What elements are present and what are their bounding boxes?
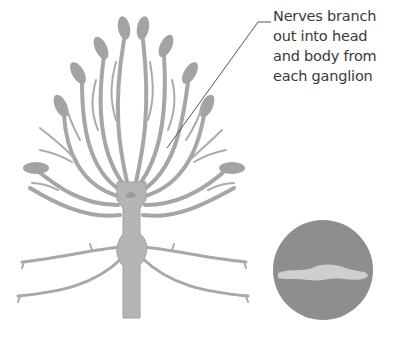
head-nerves-left xyxy=(23,15,132,216)
annotation-line-2: out into head xyxy=(273,26,397,46)
annotation-line-4: each ganglion xyxy=(273,66,397,86)
annotation-label: Nerves branch out into head and body fro… xyxy=(273,6,397,86)
annotation-line-3: and body from xyxy=(273,46,397,66)
flatworm-nervous-system-diagram: Nerves branch out into head and body fro… xyxy=(0,0,397,339)
cerebral-ganglion xyxy=(117,182,147,318)
ganglia-and-nerve-cord xyxy=(117,182,147,318)
annotation-leader xyxy=(167,22,271,148)
whole-worm-inset xyxy=(273,220,373,320)
annotation-line-1: Nerves branch xyxy=(273,6,397,26)
